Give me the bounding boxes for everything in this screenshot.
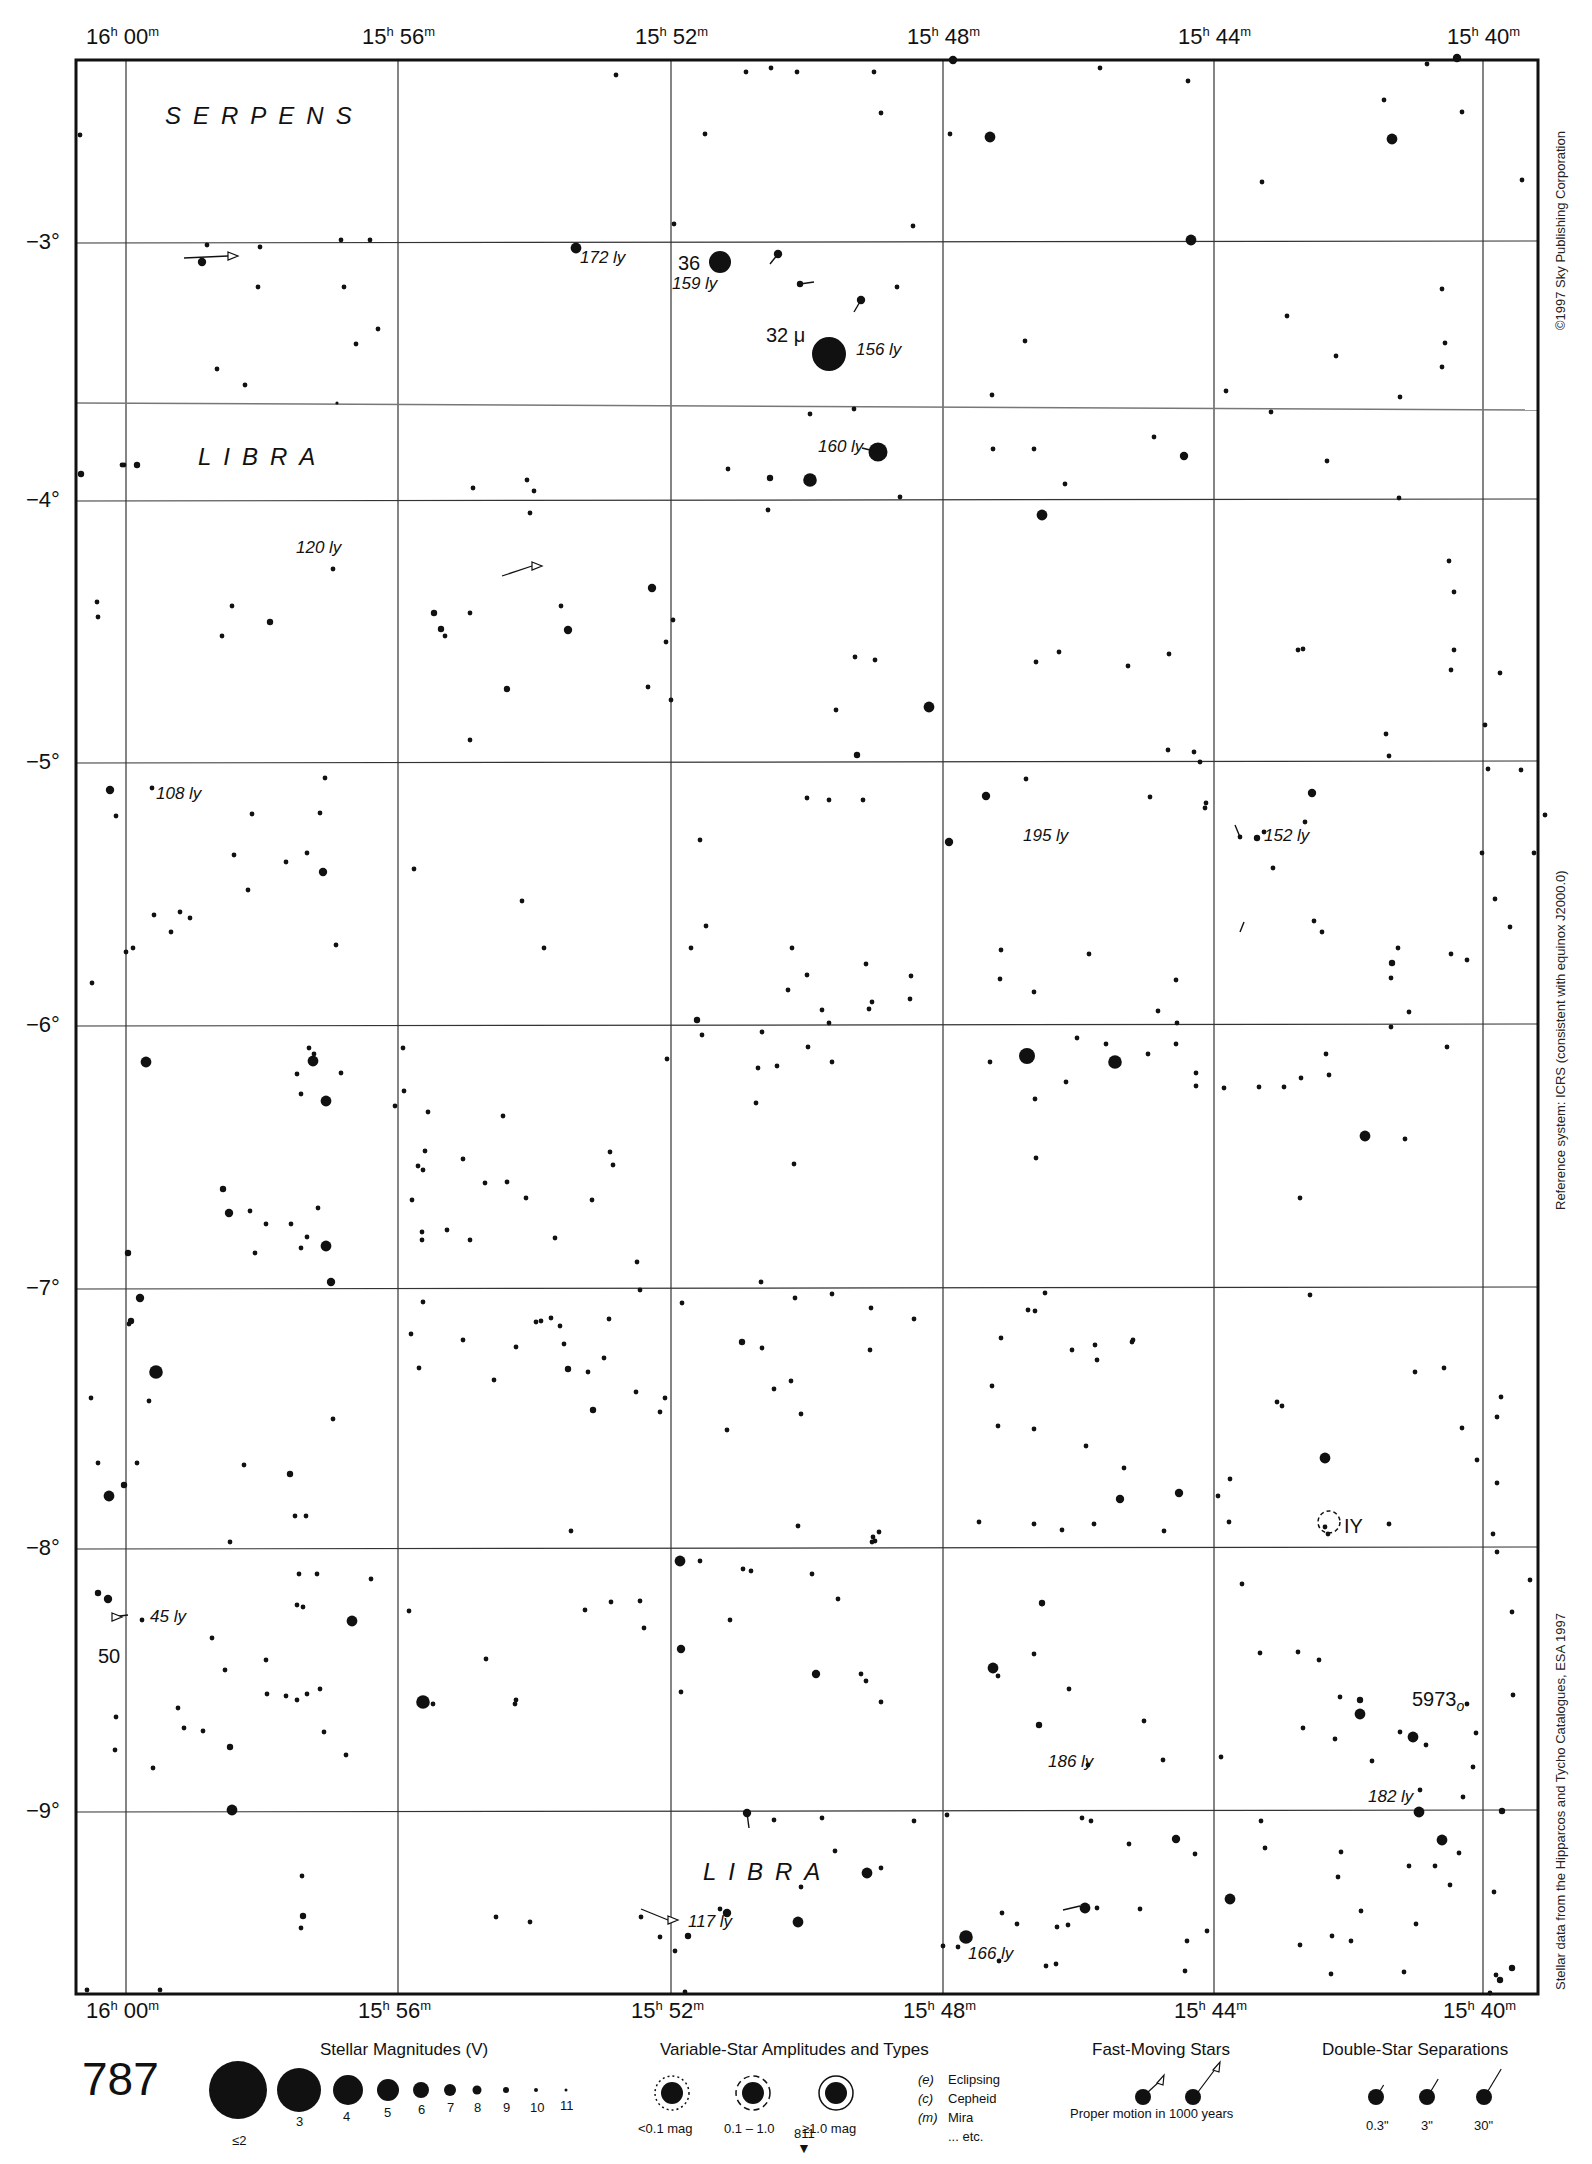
adjacent-page-link[interactable]: 811 (794, 2126, 815, 2141)
magnitude-label: 7 (447, 2100, 454, 2115)
star (1370, 1759, 1375, 1764)
chevron-down-icon[interactable]: ▼ (797, 2140, 811, 2156)
star (1301, 1726, 1306, 1731)
star (680, 1301, 685, 1306)
dec-gridline (76, 241, 1538, 243)
star (1418, 1788, 1423, 1793)
star (426, 1110, 431, 1115)
arrowhead-icon (668, 1916, 678, 1924)
star (872, 70, 877, 75)
star (806, 1045, 811, 1050)
star (1495, 1550, 1500, 1555)
star (369, 1577, 374, 1582)
star (879, 111, 884, 116)
star (494, 1915, 499, 1920)
star (134, 462, 140, 468)
star (402, 1089, 407, 1094)
star (1449, 952, 1454, 957)
star (335, 401, 338, 404)
star (1080, 1816, 1085, 1821)
star (999, 948, 1004, 953)
star (1499, 1808, 1505, 1814)
star (991, 447, 996, 452)
star (853, 655, 858, 660)
star (528, 1920, 533, 1925)
star (1510, 1610, 1515, 1615)
variable-type-item: (m)Mira (918, 2110, 973, 2125)
star (1387, 134, 1398, 145)
star (401, 1046, 406, 1051)
proper-motion-arrow (641, 1909, 668, 1920)
star (1216, 1494, 1221, 1499)
star (638, 1599, 643, 1604)
star (1414, 1807, 1425, 1818)
star (726, 467, 731, 472)
star (769, 66, 774, 71)
star (85, 1988, 90, 1993)
star (1198, 760, 1203, 765)
star (1324, 1052, 1329, 1057)
star (1389, 1025, 1394, 1030)
star (1039, 1600, 1045, 1606)
dec-label: −3° (26, 229, 60, 255)
star (468, 738, 473, 743)
star (1175, 1489, 1183, 1497)
star (1389, 960, 1395, 966)
star (220, 1186, 226, 1192)
star (1095, 1906, 1100, 1911)
magnitude-symbol (444, 2084, 456, 2096)
distance-label: 120 ly (296, 538, 341, 558)
star (1408, 1732, 1419, 1743)
star (225, 1209, 233, 1217)
star (1497, 1977, 1503, 1983)
star (985, 132, 996, 143)
star (607, 1317, 612, 1322)
magnitude-label: ≤2 (232, 2133, 246, 2148)
star (513, 1702, 518, 1707)
star (1186, 235, 1197, 246)
star (1180, 452, 1188, 460)
star (1491, 1532, 1496, 1537)
ra-label: 15h 44m (1174, 1998, 1247, 2024)
star (861, 798, 866, 803)
star (1063, 482, 1068, 487)
star (1175, 1021, 1180, 1026)
star (663, 1396, 668, 1401)
star (1285, 314, 1290, 319)
star (786, 988, 791, 993)
dec-gridline (76, 1287, 1538, 1289)
doubles-legend-title: Double-Star Separations (1322, 2040, 1508, 2060)
star (297, 1572, 302, 1577)
star (1486, 767, 1491, 772)
star (1070, 1348, 1075, 1353)
distance-label: 156 ly (856, 340, 901, 360)
star (1336, 1875, 1341, 1880)
star (1032, 1652, 1037, 1657)
star (689, 946, 694, 951)
star (104, 1491, 115, 1502)
double-star-symbol (1419, 2089, 1435, 2105)
star (1457, 1851, 1462, 1856)
star (766, 508, 771, 513)
star (78, 133, 83, 138)
star (799, 1412, 804, 1417)
distance-label: 117 ly (688, 1912, 732, 1932)
star (308, 1056, 319, 1067)
star (305, 1235, 310, 1240)
star (1034, 660, 1039, 665)
magnitude-label: 6 (418, 2102, 425, 2117)
star (1398, 1730, 1403, 1735)
star (505, 1180, 510, 1185)
distance-label: 160 ly (818, 437, 863, 457)
star (300, 1913, 306, 1919)
star (1280, 1404, 1285, 1409)
star (767, 475, 773, 481)
double-star-tick (1240, 922, 1244, 932)
star (1453, 54, 1461, 62)
star (322, 1730, 327, 1735)
dec-gridline (76, 1547, 1538, 1549)
star (1258, 1651, 1263, 1656)
star (1325, 459, 1330, 464)
dec-label: −9° (26, 1798, 60, 1824)
star (1519, 768, 1524, 773)
